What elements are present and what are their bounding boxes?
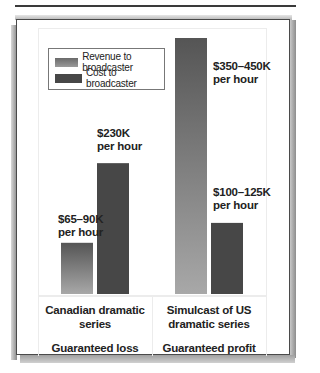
category-label-line: Simulcast of US	[152, 303, 266, 317]
legend: Revenue to broadcaster Cost to broadcast…	[48, 48, 165, 90]
data-label-line: per hour	[213, 199, 271, 212]
category-label-simulcast: Simulcast of US dramatic series	[152, 303, 266, 331]
data-label-line: $230K	[97, 127, 142, 140]
data-label-line: $100–125K	[213, 186, 271, 199]
data-label-line: per hour	[213, 73, 271, 86]
legend-swatch-cost	[55, 74, 82, 83]
outcome-label-canadian: Guaranteed loss	[38, 341, 152, 355]
category-label-canadian: Canadian dramatic series	[38, 303, 152, 331]
bar-revenue-canadian	[61, 243, 93, 294]
category-label-line: dramatic series	[152, 317, 266, 331]
data-label-simulcast-cost: $100–125K per hour	[213, 186, 271, 212]
data-label-line: $350–450K	[213, 60, 271, 73]
legend-swatch-revenue	[55, 58, 78, 67]
data-label-line: $65–90K	[58, 213, 103, 226]
legend-item-cost: Cost to broadcaster	[55, 72, 164, 84]
data-label-canadian-cost: $230K per hour	[97, 127, 142, 153]
category-divider	[266, 296, 267, 356]
legend-label: Cost to broadcaster	[86, 67, 164, 89]
bar-cost-simulcast	[211, 223, 243, 294]
category-label-line: Canadian dramatic	[38, 303, 152, 317]
data-label-line: per hour	[97, 140, 142, 153]
data-label-canadian-revenue: $65–90K per hour	[58, 213, 103, 239]
data-label-line: per hour	[58, 226, 103, 239]
data-label-simulcast-revenue: $350–450K per hour	[213, 60, 271, 86]
category-label-line: series	[38, 317, 152, 331]
outcome-label-simulcast: Guaranteed profit	[152, 341, 266, 355]
bar-revenue-simulcast	[175, 38, 207, 294]
